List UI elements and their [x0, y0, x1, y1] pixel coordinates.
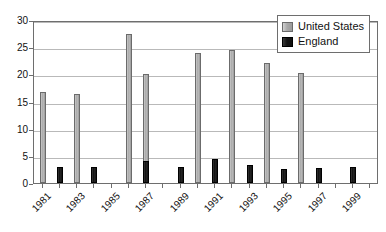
x-axis-tick-label: 1995: [264, 191, 294, 221]
bar-united-states-1981: [40, 92, 46, 183]
x-axis-tick-mark: [214, 184, 215, 188]
legend-swatch-england: [282, 37, 293, 47]
x-axis-tick-label: 1993: [230, 191, 260, 221]
x-axis-tick-label: 1989: [161, 191, 191, 221]
x-axis-tick-mark: [128, 184, 129, 188]
x-axis-tick-mark: [42, 184, 43, 188]
bar-england-1987: [143, 161, 149, 183]
x-axis-tick-label: 1997: [299, 191, 329, 221]
x-axis-tick-mark: [352, 184, 353, 188]
bar-england-1982: [57, 167, 63, 183]
y-axis: 051015202530: [0, 0, 33, 195]
x-axis-tick-mark: [266, 184, 267, 188]
y-axis-tick-label: 10: [17, 125, 28, 135]
legend-label-united-states: United States: [298, 21, 364, 32]
bar-united-states-1990: [195, 53, 201, 183]
x-axis-tick-mark: [335, 184, 336, 188]
x-axis-tick-label: 1985: [92, 191, 122, 221]
y-axis-tick-label: 5: [22, 152, 28, 162]
bar-england-1984: [91, 167, 97, 183]
bar-chart: 051015202530 198119831985198719891991199…: [0, 0, 386, 232]
x-axis-tick-mark: [162, 184, 163, 188]
legend-item-england: England: [282, 34, 364, 49]
legend-item-united-states: United States: [282, 19, 364, 34]
y-axis-tick-label: 0: [22, 179, 28, 189]
legend-swatch-united-states: [282, 22, 293, 32]
x-axis-tick-mark: [111, 184, 112, 188]
x-axis-tick-mark: [369, 184, 370, 188]
bar-united-states-1996: [298, 73, 304, 183]
y-axis-tick-label: 30: [17, 16, 28, 26]
x-axis-tick-mark: [93, 184, 94, 188]
bar-england-1991: [212, 159, 218, 183]
x-axis-tick-mark: [76, 184, 77, 188]
y-axis-tick-label: 20: [17, 70, 28, 80]
x-axis-tick-mark: [318, 184, 319, 188]
x-axis-tick-mark: [180, 184, 181, 188]
legend-label-england: England: [298, 36, 338, 47]
bar-united-states-1992: [229, 50, 235, 183]
y-axis-tick-label: 25: [17, 43, 28, 53]
x-axis-tick-mark: [283, 184, 284, 188]
x-axis-tick-mark: [197, 184, 198, 188]
x-axis-tick-label: 1991: [195, 191, 225, 221]
bar-united-states-1983: [74, 94, 80, 183]
bar-england-1993: [247, 165, 253, 183]
bar-england-1995: [281, 169, 287, 183]
chart-legend: United States England: [277, 15, 370, 53]
x-axis-tick-label: 1999: [333, 191, 363, 221]
x-axis-tick-mark: [300, 184, 301, 188]
x-axis-tick-mark: [145, 184, 146, 188]
x-axis-tick-mark: [59, 184, 60, 188]
bar-england-1999: [350, 167, 356, 183]
x-axis-tick-mark: [231, 184, 232, 188]
x-axis: 1981198319851987198919911993199519971999: [33, 184, 378, 232]
x-axis-tick-mark: [249, 184, 250, 188]
y-axis-tick-label: 15: [17, 98, 28, 108]
bar-england-1989: [178, 167, 184, 183]
bar-england-1997: [316, 168, 322, 183]
x-axis-tick-label: 1981: [23, 191, 53, 221]
x-axis-tick-label: 1987: [126, 191, 156, 221]
bar-united-states-1994: [264, 63, 270, 183]
bar-united-states-1986: [126, 34, 132, 183]
x-axis-tick-label: 1983: [57, 191, 87, 221]
